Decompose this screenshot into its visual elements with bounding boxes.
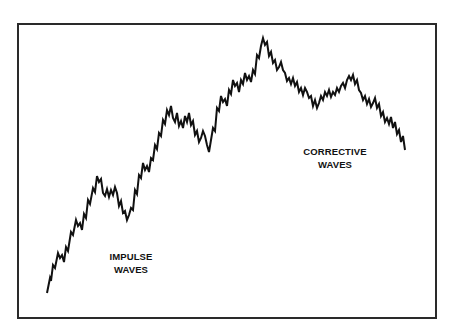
price-wave-line bbox=[0, 0, 452, 335]
impulse-waves-label: IMPULSE WAVES bbox=[96, 250, 166, 276]
impulse-label-line1: IMPULSE bbox=[96, 250, 166, 263]
corrective-waves-label: CORRECTIVE WAVES bbox=[290, 145, 380, 171]
impulse-label-line2: WAVES bbox=[96, 263, 166, 276]
corrective-label-line1: CORRECTIVE bbox=[290, 145, 380, 158]
corrective-label-line2: WAVES bbox=[290, 158, 380, 171]
diagram-canvas: IMPULSE WAVES CORRECTIVE WAVES bbox=[0, 0, 452, 335]
